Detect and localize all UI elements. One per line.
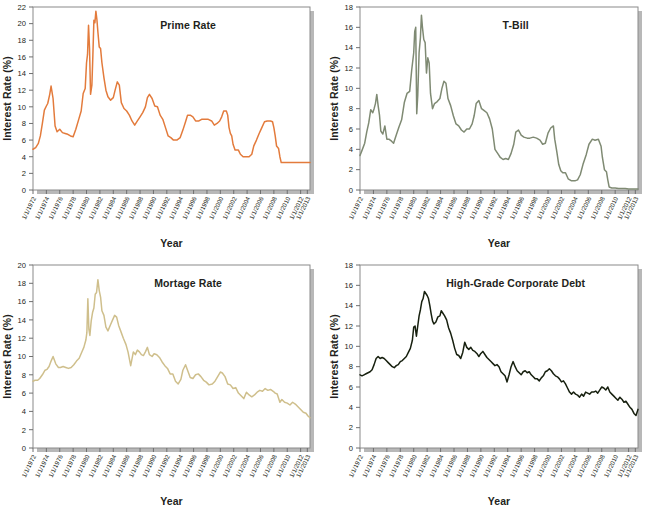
y-tick-label: 2 (22, 169, 26, 178)
y-tick-label: 22 (18, 3, 26, 12)
prime-rate-chart-svg: 02468101214161820221/1/19721/1/19741/1/1… (0, 0, 327, 258)
y-tick-label: 10 (345, 84, 353, 93)
plot-frame (33, 7, 310, 190)
plot-frame (360, 7, 638, 190)
y-tick-label: 12 (345, 322, 353, 331)
y-tick-label: 14 (345, 43, 353, 52)
y-tick-label: 16 (18, 297, 26, 306)
y-tick-label: 16 (18, 53, 26, 62)
y-axis-label: Interest Rate (%) (328, 56, 340, 141)
y-tick-label: 8 (22, 371, 26, 380)
x-axis-label: Year (488, 237, 511, 249)
panel-title: Prime Rate (160, 19, 216, 31)
panel-t-bill: 0246810121416181/1/19721/1/19741/1/19761… (327, 0, 655, 258)
plot-frame (33, 265, 310, 448)
y-tick-label: 18 (345, 3, 353, 12)
y-tick-label: 6 (22, 389, 26, 398)
y-tick-label: 14 (345, 301, 353, 310)
panel-title: Mortage Rate (154, 277, 222, 289)
y-tick-label: 8 (349, 362, 353, 371)
x-axis-label: Year (160, 237, 183, 249)
panel-title: High-Grade Corporate Debt (446, 277, 585, 289)
y-tick-label: 16 (345, 23, 353, 32)
y-tick-label: 4 (349, 403, 353, 412)
y-tick-label: 4 (22, 153, 26, 162)
y-tick-label: 12 (18, 334, 26, 343)
mortage-rate-chart-svg: 024681012141618201/1/19721/1/19741/1/197… (0, 258, 327, 516)
y-axis-label: Interest Rate (%) (1, 314, 13, 399)
y-tick-label: 18 (345, 261, 353, 270)
y-tick-label: 12 (18, 86, 26, 95)
y-tick-label: 6 (349, 383, 353, 392)
y-tick-label: 14 (18, 69, 26, 78)
y-tick-label: 18 (18, 279, 26, 288)
y-tick-label: 10 (345, 342, 353, 351)
panel-mortage-rate: 024681012141618201/1/19721/1/19741/1/197… (0, 258, 327, 516)
y-tick-label: 0 (22, 444, 26, 453)
y-tick-label: 4 (22, 407, 26, 416)
y-tick-label: 2 (349, 165, 353, 174)
y-tick-label: 14 (18, 316, 26, 325)
y-tick-label: 6 (22, 136, 26, 145)
t-bill-chart-svg: 0246810121416181/1/19721/1/19741/1/19761… (327, 0, 655, 258)
y-tick-label: 8 (22, 119, 26, 128)
high-grade-corporate-debt-chart-svg: 0246810121416181/1/19721/1/19741/1/19761… (327, 258, 655, 516)
y-axis-label: Interest Rate (%) (328, 314, 340, 399)
y-tick-label: 0 (349, 444, 353, 453)
y-tick-label: 16 (345, 281, 353, 290)
y-tick-label: 20 (18, 261, 26, 270)
chart-panel-grid: 02468101214161820221/1/19721/1/19741/1/1… (0, 0, 655, 516)
x-axis-label: Year (488, 495, 511, 507)
y-tick-label: 8 (349, 104, 353, 113)
y-tick-label: 0 (349, 186, 353, 195)
y-tick-label: 2 (22, 426, 26, 435)
panel-prime-rate: 02468101214161820221/1/19721/1/19741/1/1… (0, 0, 327, 258)
y-tick-label: 10 (18, 352, 26, 361)
panel-high-grade-corporate-debt: 0246810121416181/1/19721/1/19741/1/19761… (327, 258, 655, 516)
x-axis-label: Year (160, 495, 183, 507)
y-axis-label: Interest Rate (%) (1, 56, 13, 141)
y-tick-label: 4 (349, 145, 353, 154)
y-tick-label: 20 (18, 19, 26, 28)
y-tick-label: 2 (349, 423, 353, 432)
plot-frame (360, 265, 638, 448)
y-tick-label: 12 (345, 64, 353, 73)
y-tick-label: 10 (18, 103, 26, 112)
y-tick-label: 0 (22, 186, 26, 195)
y-tick-label: 6 (349, 125, 353, 134)
panel-title: T-Bill (503, 19, 529, 31)
y-tick-label: 18 (18, 36, 26, 45)
